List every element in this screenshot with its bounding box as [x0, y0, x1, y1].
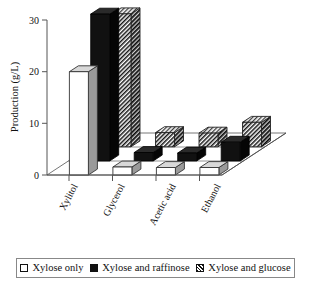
chart-legend: Xylose only Xylose and raffinose Xylose … [16, 258, 295, 278]
legend-label-xylose-and-glucose: Xylose and glucose [208, 263, 290, 274]
x-label-xylitol: Xylitol [57, 182, 80, 212]
x-label-acetic-acid: Acetic acid [147, 182, 178, 227]
bar-chart-3d: 0 10 20 30 Production (g/L) [0, 0, 315, 293]
legend-swatch-hatch-icon [196, 264, 204, 272]
legend-item-xylose-and-glucose: Xylose and glucose [196, 263, 290, 274]
bar-ethanol-xylose-and-raffinose [221, 136, 249, 161]
bar-xylitol-xylose-only [69, 66, 97, 175]
y-tick-0: 0 [34, 170, 39, 181]
bar-glycerol-xylose-and-glucose [156, 127, 184, 147]
y-tick-30: 30 [29, 15, 39, 26]
x-label-ethanol: Ethanol [198, 182, 222, 215]
y-axis-title: Production (g/L) [9, 61, 21, 132]
legend-item-xylose-and-raffinose: Xylose and raffinose [90, 263, 189, 274]
legend-swatch-black-icon [90, 264, 98, 272]
x-label-glycerol: Glycerol [101, 182, 127, 218]
legend-item-xylose-only: Xylose only [20, 263, 83, 274]
y-tick-20: 20 [29, 66, 39, 77]
legend-label-xylose-only: Xylose only [32, 263, 83, 274]
legend-swatch-white-icon [20, 264, 28, 272]
y-tick-10: 10 [29, 118, 39, 129]
chart-figure: 0 10 20 30 Production (g/L) [0, 0, 315, 293]
bar-group-xylose-and-glucose [112, 8, 271, 147]
legend-label-xylose-and-raffinose: Xylose and raffinose [102, 263, 189, 274]
y-axis: 0 10 20 30 Production (g/L) [9, 15, 47, 181]
